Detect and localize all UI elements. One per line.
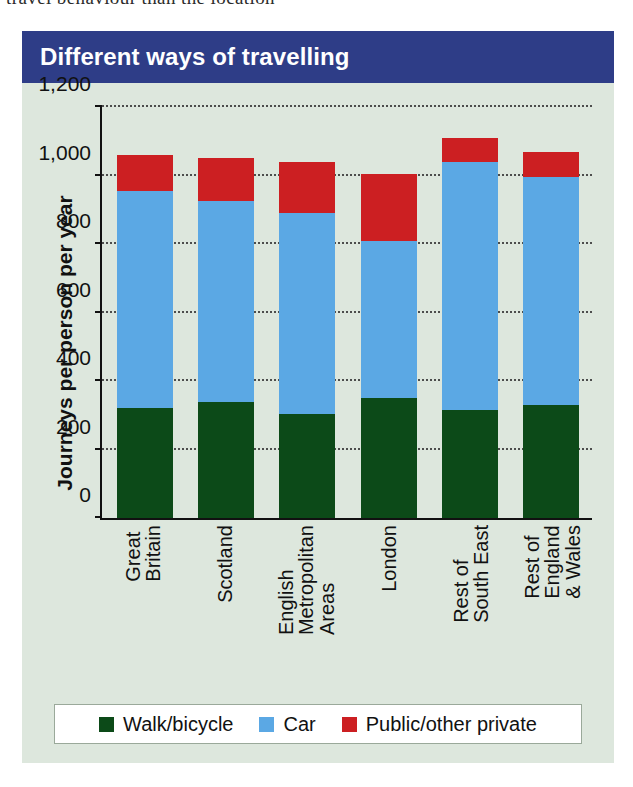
bar-segment[interactable] — [117, 408, 173, 518]
legend-item[interactable]: Walk/bicycle — [99, 713, 233, 736]
bar-segment[interactable] — [279, 162, 335, 213]
chart-legend: Walk/bicycleCarPublic/other private — [54, 704, 582, 744]
bar-slot — [429, 107, 510, 518]
chart-title-bar: Different ways of travelling — [22, 31, 614, 83]
chart-title: Different ways of travelling — [40, 43, 350, 71]
bar-slot — [185, 107, 266, 518]
bar-segment[interactable] — [442, 162, 498, 410]
x-axis-category-labels: GreatBritainScotlandEnglishMetropolitanA… — [102, 525, 594, 721]
plot-wrapper: 02004006008001,0001,200 — [100, 107, 592, 531]
bar-stack[interactable] — [117, 155, 173, 518]
y-tick-label: 600 — [56, 278, 91, 302]
y-tick-label: 0 — [79, 483, 91, 507]
y-tick-mark — [95, 516, 102, 518]
bar-segment[interactable] — [361, 398, 417, 518]
bars-layer — [104, 107, 592, 518]
bar-segment[interactable] — [279, 414, 335, 518]
y-tick-mark — [95, 242, 102, 244]
y-tick-label: 200 — [56, 415, 91, 439]
y-tick-mark — [95, 311, 102, 313]
bar-slot — [104, 107, 185, 518]
bar-segment[interactable] — [279, 213, 335, 413]
x-axis-label-line: Scotland — [215, 525, 235, 603]
bar-stack[interactable] — [523, 152, 579, 518]
bar-stack[interactable] — [361, 174, 417, 518]
category-slot: London — [348, 525, 430, 721]
y-tick-label: 1,000 — [38, 141, 91, 165]
cropped-text-above-figure: travel behaviour than the location — [0, 0, 633, 14]
bar-segment[interactable] — [117, 191, 173, 408]
bar-segment[interactable] — [361, 241, 417, 399]
plot-area: 02004006008001,0001,200 — [100, 107, 592, 520]
x-axis-label-line: England — [543, 525, 563, 599]
legend-label: Public/other private — [366, 713, 537, 736]
bar-slot — [511, 107, 592, 518]
bar-segment[interactable] — [523, 405, 579, 518]
y-tick-label: 400 — [56, 346, 91, 370]
bar-segment[interactable] — [442, 138, 498, 162]
legend-swatch-icon — [99, 717, 114, 732]
bar-slot — [348, 107, 429, 518]
bar-stack[interactable] — [198, 158, 254, 518]
x-axis-label: Rest ofSouth East — [451, 525, 492, 623]
cropped-text-line: travel behaviour than the location — [6, 0, 275, 9]
category-slot: GreatBritain — [102, 525, 184, 721]
legend-item[interactable]: Car — [259, 713, 315, 736]
x-axis-label-line: Britain — [143, 525, 163, 582]
x-axis-label: London — [379, 525, 399, 592]
y-tick-mark — [95, 448, 102, 450]
bar-segment[interactable] — [198, 201, 254, 401]
x-axis-label-line: & Wales — [563, 525, 583, 599]
bar-segment[interactable] — [198, 402, 254, 518]
y-tick-mark — [95, 379, 102, 381]
bar-segment[interactable] — [523, 177, 579, 405]
x-axis-label-line: Rest of — [451, 525, 471, 623]
x-axis-label: GreatBritain — [123, 525, 164, 582]
x-axis-label: Rest ofEngland& Wales — [522, 525, 583, 599]
x-axis-label: EnglishMetropolitanAreas — [276, 525, 337, 635]
x-axis-label-line: Areas — [317, 525, 337, 635]
x-axis-label-line: South East — [471, 525, 491, 623]
y-tick-mark — [95, 105, 102, 107]
y-tick-label: 800 — [56, 209, 91, 233]
bar-segment[interactable] — [442, 410, 498, 518]
bar-segment[interactable] — [198, 158, 254, 201]
bar-segment[interactable] — [523, 152, 579, 178]
x-axis-label-line: Metropolitan — [297, 525, 317, 635]
legend-item[interactable]: Public/other private — [342, 713, 537, 736]
x-axis-label-line: English — [276, 525, 296, 635]
y-tick-mark — [95, 174, 102, 176]
y-tick-label: 1,200 — [38, 72, 91, 96]
legend-swatch-icon — [342, 717, 357, 732]
bar-stack[interactable] — [442, 138, 498, 518]
category-slot: Scotland — [184, 525, 266, 721]
bar-slot — [267, 107, 348, 518]
legend-label: Car — [283, 713, 315, 736]
category-slot: EnglishMetropolitanAreas — [266, 525, 348, 721]
legend-swatch-icon — [259, 717, 274, 732]
x-axis-label-line: London — [379, 525, 399, 592]
chart-figure: Different ways of travelling Journeys pe… — [22, 31, 614, 763]
bar-stack[interactable] — [279, 162, 335, 518]
x-axis-label: Scotland — [215, 525, 235, 603]
x-axis-label-line: Great — [123, 525, 143, 582]
category-slot: Rest ofEngland& Wales — [512, 525, 594, 721]
bar-segment[interactable] — [117, 155, 173, 191]
legend-label: Walk/bicycle — [123, 713, 233, 736]
x-axis-label-line: Rest of — [522, 525, 542, 599]
category-slot: Rest ofSouth East — [430, 525, 512, 721]
bar-segment[interactable] — [361, 174, 417, 241]
